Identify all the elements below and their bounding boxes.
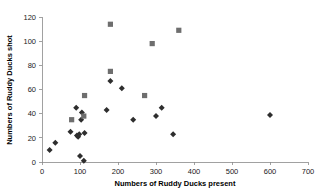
y-axis-tick-group: 020406080100120 [23,13,42,167]
data-point-square [108,22,113,27]
data-point-square [142,93,147,98]
data-point-square [82,93,87,98]
x-axis-tick-label: 500 [226,167,239,176]
data-point-square [176,28,181,33]
y-axis-tick-label: 100 [23,37,36,46]
data-point-diamond [47,147,53,153]
x-axis-tick-group: 0100200300400500600700 [40,162,314,176]
x-axis-tick-label: 600 [264,167,277,176]
scatter-plot-screenshot: 020406080100120 0100200300400500600700 N… [0,0,320,195]
data-point-diamond [119,85,125,91]
x-axis-tick-label: 400 [188,167,201,176]
data-point-diamond [73,105,79,111]
x-axis-tick-label: 0 [40,167,44,176]
scatter-chart: 020406080100120 0100200300400500600700 N… [0,0,320,195]
data-point-diamond [82,130,88,136]
data-point-diamond [52,140,58,146]
x-axis-tick-label: 300 [150,167,163,176]
data-point-diamond [107,78,113,84]
data-point-square [108,69,113,74]
data-point-diamond [104,107,110,113]
x-axis-tick-label: 700 [302,167,315,176]
y-axis-tick-label: 80 [28,61,36,70]
data-point-diamond [130,117,136,123]
y-axis-tick-label: 120 [23,13,36,22]
data-point-diamond [153,113,159,119]
x-axis-tick-label: 100 [74,167,87,176]
data-point-square [150,41,155,46]
data-point-square [81,113,86,118]
x-axis-title: Numbers of Ruddy Ducks present [115,179,236,188]
y-axis-tick-label: 0 [32,158,36,167]
data-point-diamond [159,105,165,111]
y-axis-tick-label: 60 [28,85,36,94]
data-point-diamond [267,112,273,118]
data-point-diamond [77,153,83,159]
data-point-diamond [68,129,74,135]
data-points-layer [47,22,273,164]
y-axis-title: Numbers of Ruddy Ducks shot [5,35,14,145]
y-axis-tick-label: 40 [28,109,36,118]
y-axis-tick-label: 20 [28,134,36,143]
data-point-diamond [81,158,87,164]
data-point-diamond [170,131,176,137]
x-axis-tick-label: 200 [112,167,125,176]
data-point-square [69,117,74,122]
